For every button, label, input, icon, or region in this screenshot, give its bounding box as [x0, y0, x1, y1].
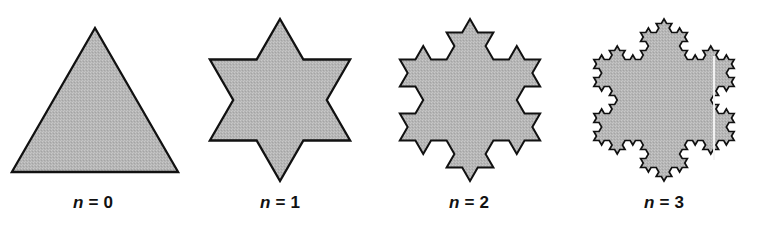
caption-panel-n1: n = 1: [186, 192, 374, 214]
koch-snowflake-level-2-svg: [374, 0, 564, 190]
koch-snowflake-level-2-outline: [400, 19, 540, 181]
caption-equals-value: = 3: [659, 193, 684, 212]
scan-line-artifact: [713, 56, 715, 160]
koch-snowflake-level-3-svg: [564, 0, 764, 190]
caption-variable: n: [644, 193, 655, 212]
iteration-panel-2: n = 2: [374, 0, 564, 227]
caption-panel-n2: n = 2: [374, 192, 564, 214]
caption-panel-n0: n = 0: [0, 192, 186, 214]
iteration-panel-3: n = 3: [564, 0, 764, 227]
equilateral-triangle-outline: [12, 28, 178, 172]
caption-variable: n: [73, 193, 84, 212]
koch-snowflake-level-3: [564, 0, 764, 190]
six-point-star-outline: [210, 19, 350, 181]
six-point-star-svg: [186, 0, 374, 190]
caption-panel-n3: n = 3: [564, 192, 764, 214]
equilateral-triangle-svg: [0, 0, 186, 190]
six-point-star: [186, 0, 374, 190]
equilateral-triangle: [0, 0, 186, 190]
caption-equals-value: = 1: [275, 193, 300, 212]
iteration-panel-0: n = 0: [0, 0, 186, 227]
koch-snowflake-level-2: [374, 0, 564, 190]
caption-equals-value: = 2: [464, 193, 489, 212]
caption-variable: n: [260, 193, 271, 212]
koch-snowflake-figure: n = 0n = 1n = 2n = 3: [0, 0, 764, 227]
iteration-panel-1: n = 1: [186, 0, 374, 227]
caption-equals-value: = 0: [88, 193, 113, 212]
caption-variable: n: [449, 193, 460, 212]
